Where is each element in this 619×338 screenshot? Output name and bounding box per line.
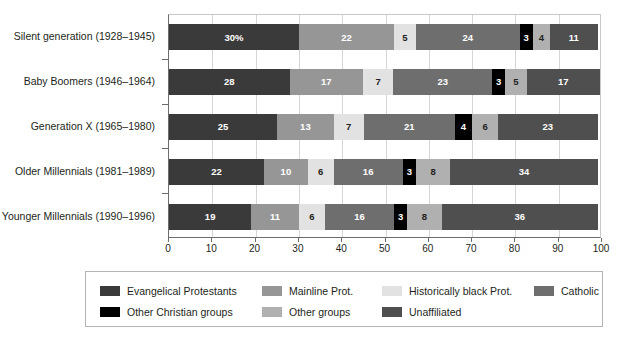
bar-segment: 7: [334, 114, 364, 140]
legend-swatch-icon: [100, 286, 120, 296]
bar-series-container: 30%2252434112817723351725137214623221061…: [169, 15, 600, 237]
x-axis-tick: [341, 238, 342, 242]
y-axis-tick: [162, 193, 168, 194]
bar-value-label: 16: [363, 167, 374, 177]
legend-swatch-icon: [262, 286, 282, 296]
bar-segment: 16: [325, 204, 394, 230]
x-axis-tick-label: 30: [292, 243, 303, 254]
bar-value-label: 23: [437, 77, 448, 87]
bar-value-label: 4: [539, 33, 544, 43]
legend-item[interactable]: Evangelical Protestants: [100, 285, 237, 297]
bar-value-label: 11: [569, 33, 579, 43]
legend-swatch-icon: [382, 286, 402, 296]
legend-label: Mainline Prot.: [289, 285, 353, 297]
x-axis-tick-label: 100: [593, 243, 610, 254]
bar-value-label: 21: [404, 122, 415, 132]
bar-value-label: 7: [346, 122, 351, 132]
legend-swatch-icon: [382, 307, 402, 317]
bar-segment: 22: [299, 24, 394, 50]
bar-segment: 10: [264, 159, 307, 185]
bar-row: 30%225243411: [169, 24, 600, 50]
bar-segment: 28: [169, 69, 290, 95]
legend-label: Catholic: [561, 285, 599, 297]
bar-segment: 21: [364, 114, 455, 140]
x-axis-tick: [428, 238, 429, 242]
legend-label: Historically black Prot.: [409, 285, 512, 297]
x-axis-tick-label: 50: [379, 243, 390, 254]
x-axis-tick: [298, 238, 299, 242]
bar-value-label: 6: [309, 212, 314, 222]
x-axis-tick: [471, 238, 472, 242]
bar-value-label: 13: [300, 122, 311, 132]
legend-label: Evangelical Protestants: [127, 285, 237, 297]
chart-legend: Evangelical ProtestantsMainline Prot.His…: [85, 271, 603, 327]
bar-segment: 7: [363, 69, 393, 95]
bar-segment: 17: [527, 69, 600, 95]
legend-item[interactable]: Historically black Prot.: [382, 285, 512, 297]
bar-row: 28177233517: [169, 69, 600, 95]
legend-item[interactable]: Catholic: [534, 285, 599, 297]
bar-segment: 25: [169, 114, 277, 140]
bar-value-label: 19: [205, 212, 216, 222]
bar-value-label: 25: [218, 122, 229, 132]
bar-value-label: 24: [462, 33, 473, 43]
bar-segment: 6: [308, 159, 334, 185]
legend-swatch-icon: [534, 286, 554, 296]
bar-segment: 8: [416, 159, 451, 185]
bar-value-label: 8: [422, 212, 427, 222]
legend-item[interactable]: Unaffiliated: [382, 306, 461, 318]
x-axis-tick-label: 20: [249, 243, 260, 254]
bar-value-label: 34: [519, 167, 530, 177]
x-axis-tick: [211, 238, 212, 242]
legend-item[interactable]: Other groups: [262, 306, 350, 318]
legend-row: Other Christian groupsOther groupsUnaffi…: [86, 302, 602, 322]
category-label: Older Millennials (1981–1989): [0, 165, 155, 177]
x-axis-tick: [558, 238, 559, 242]
bar-value-label: 22: [211, 167, 222, 177]
x-axis-tick: [168, 238, 169, 242]
legend-item[interactable]: Mainline Prot.: [262, 285, 353, 297]
bar-value-label: 3: [407, 167, 412, 177]
bar-row: 19116163836: [169, 204, 600, 230]
bar-value-label: 7: [375, 77, 380, 87]
bar-segment: 8: [407, 204, 442, 230]
bar-value-label: 22: [341, 33, 352, 43]
bar-segment: 16: [334, 159, 403, 185]
bar-value-label: 17: [321, 77, 332, 87]
x-axis-tick-label: 80: [509, 243, 520, 254]
bar-value-label: 28: [224, 77, 235, 87]
bar-segment: 17: [290, 69, 363, 95]
bar-value-label: 4: [461, 122, 466, 132]
bar-segment: 34: [450, 159, 597, 185]
category-label: Generation X (1965–1980): [0, 120, 155, 132]
bar-value-label: 36: [514, 212, 525, 222]
bar-segment: 11: [251, 204, 299, 230]
legend-item[interactable]: Other Christian groups: [100, 306, 233, 318]
legend-row: Evangelical ProtestantsMainline Prot.His…: [86, 281, 602, 301]
bar-value-label: 3: [524, 33, 529, 43]
bar-segment: 22: [169, 159, 264, 185]
x-axis-tick-label: 70: [466, 243, 477, 254]
bar-segment: 13: [277, 114, 333, 140]
x-axis-tick: [601, 238, 602, 242]
bar-segment: 19: [169, 204, 251, 230]
bar-segment: 3: [394, 204, 407, 230]
legend-swatch-icon: [100, 307, 120, 317]
bar-row: 25137214623: [169, 114, 600, 140]
bar-value-label: 23: [543, 122, 554, 132]
bar-value-label: 17: [558, 77, 569, 87]
y-axis-tick: [162, 104, 168, 105]
bar-segment: 24: [416, 24, 520, 50]
legend-label: Other Christian groups: [127, 306, 233, 318]
x-axis-tick-label: 40: [336, 243, 347, 254]
legend-label: Unaffiliated: [409, 306, 461, 318]
bar-segment: 5: [394, 24, 416, 50]
bar-value-label: 11: [270, 212, 280, 222]
y-axis-tick: [162, 148, 168, 149]
bar-segment: 4: [533, 24, 550, 50]
stacked-bar-chart: Silent generation (1928–1945)Baby Boomer…: [0, 0, 619, 338]
bar-value-label: 16: [354, 212, 365, 222]
x-axis-tick: [255, 238, 256, 242]
bar-row: 22106163834: [169, 159, 600, 185]
bar-value-label: 5: [513, 77, 518, 87]
